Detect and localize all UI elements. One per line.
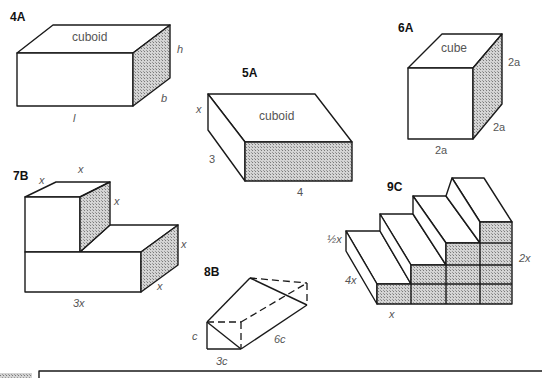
dim-width: 2a	[435, 144, 448, 156]
figure-7b-l-shape: 7B x x x x x 3x	[13, 163, 187, 309]
page-bottom-rule	[0, 371, 542, 378]
dim-lower-width: 3x	[73, 297, 85, 309]
dim-lower-height: x	[180, 238, 187, 250]
solids-diagram: 4A cuboid h b l 5A cuboid x 3 4 6A cube …	[0, 0, 542, 378]
lower-front-face	[25, 252, 141, 292]
dim-h: h	[177, 43, 183, 55]
dim-4: 4	[297, 186, 303, 198]
shape-name: cuboid	[72, 30, 107, 44]
dim-depth: 2a	[493, 121, 506, 133]
figure-4a-cuboid: 4A cuboid h b l	[10, 10, 183, 124]
dim-x: x	[388, 308, 395, 320]
figure-6a-label: 6A	[398, 21, 414, 35]
separator-line	[39, 371, 542, 378]
front-face	[17, 53, 133, 106]
figure-5a-cuboid: 5A cuboid x 3 4	[195, 66, 352, 198]
dim-2x: 2x	[518, 252, 531, 264]
dim-l: l	[73, 112, 76, 124]
edge	[207, 322, 241, 349]
shape-name: cuboid	[259, 109, 294, 123]
dim-b: b	[161, 92, 167, 104]
figure-9c-staircase: 9C ½x 4x 2x x	[327, 178, 531, 320]
top-cube-front-face	[25, 197, 80, 252]
dim-top-depth: x	[38, 174, 45, 186]
figure-8b-label: 8B	[204, 265, 220, 279]
dim-top-height: x	[113, 195, 120, 207]
dim-c: c	[192, 330, 198, 342]
dim-3: 3	[209, 153, 215, 165]
dim-half-x: ½x	[327, 233, 342, 245]
dim-height: 2a	[508, 56, 521, 68]
figure-6a-cube: 6A cube 2a 2a 2a	[398, 21, 521, 156]
figure-5a-label: 5A	[242, 66, 258, 80]
figure-8b-prism: 8B c 3c 6c	[192, 265, 307, 367]
edge	[207, 278, 250, 322]
figure-7b-label: 7B	[13, 169, 29, 183]
front-face	[408, 68, 473, 139]
dim-top-width: x	[77, 163, 84, 175]
figure-4a-label: 4A	[10, 10, 26, 24]
margin-marks	[0, 373, 32, 378]
dim-3c: 3c	[216, 355, 228, 367]
dim-6c: 6c	[274, 333, 286, 345]
front-face-shaded	[245, 142, 352, 181]
dim-4x: 4x	[345, 274, 357, 286]
dim-x: x	[195, 103, 202, 115]
figure-9c-label: 9C	[387, 180, 403, 194]
shape-name: cube	[441, 41, 467, 55]
dim-lower-depth: x	[156, 280, 163, 292]
